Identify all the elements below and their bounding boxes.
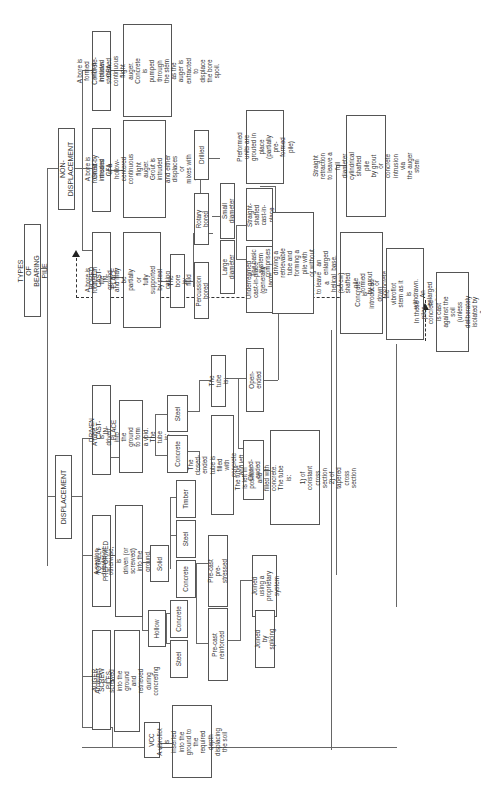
closed-tube-desc: The closed-ended tube is filled with con… (211, 415, 234, 515)
bored-cast-desc: A bore is formed in the ground and may b… (123, 232, 161, 328)
connector (155, 414, 167, 415)
root-node: TYPES OF BEARING PILE (24, 224, 41, 317)
driven-steel-node: Steel (167, 395, 188, 432)
closed-ended-desc: The tube is left in position and filled … (270, 430, 320, 525)
connector (212, 216, 220, 217)
connector (82, 250, 92, 251)
connector (228, 640, 241, 641)
solid-concrete-node: Concrete (176, 560, 196, 598)
connector (196, 563, 197, 643)
joined-proprietary-node: Joined using a proprietary system (252, 555, 277, 617)
connector (236, 225, 237, 259)
concrete-cfa-desc: A bore is formed with a hollow-stemmed c… (123, 24, 172, 117)
hollow-steel-node: Steel (170, 640, 188, 678)
connector (170, 497, 171, 569)
connector (396, 344, 397, 607)
precast-reinforced-node: Pre-cast reinforced (208, 608, 228, 681)
connector (196, 643, 208, 644)
connector (47, 496, 55, 497)
joined-splicing-node: Joined by splicing (255, 610, 275, 668)
arrow-up-icon (72, 250, 80, 257)
connector (199, 380, 200, 411)
bore-is-node: The bore is: (170, 254, 185, 308)
driven-cast-desc: A tube is driven into the ground to form… (119, 400, 143, 473)
connector (82, 555, 92, 556)
open-ended-desc: The basic system comprises driving a ret… (272, 212, 314, 314)
connector (82, 438, 83, 728)
connector (166, 613, 167, 643)
drilled-node: Drilled (194, 130, 209, 180)
hollow-concrete-node: Concrete (170, 600, 188, 638)
connector (260, 186, 276, 187)
connector (240, 580, 241, 640)
vcc-desc: A vibroflot is inserted into the ground … (172, 705, 212, 778)
connector (188, 411, 200, 412)
connector (82, 747, 397, 748)
connector (112, 727, 113, 747)
connector (278, 312, 279, 380)
connector (47, 168, 48, 566)
auger-screw-desc: An auger is screwed into the ground and … (114, 630, 140, 732)
rotary-bored-node: Rotary bored (194, 193, 209, 245)
precast-prestressed-node: Pre-cast pre-stressed (208, 535, 228, 607)
connector (264, 380, 278, 381)
note-box: In these piles, concrete is cast against… (436, 272, 469, 352)
straight-retraction-desc: Straight retraction to leave a full diam… (346, 115, 386, 217)
small-diameter-node: Small diameter (220, 183, 235, 239)
connector (238, 378, 239, 448)
solid-steel-node: Steel (176, 520, 196, 558)
dashed-arrow (76, 258, 77, 298)
grout-cfa-desc: A bore is formed by means of a hollow-ce… (123, 120, 166, 218)
connector (336, 165, 337, 575)
percussion-bored-node: Percussion bored (194, 262, 209, 319)
solid-node: Solid (150, 545, 169, 582)
connector (331, 330, 332, 750)
preformed-grouted-node: Preformed units are grouted in place (pa… (246, 110, 284, 184)
straight-shafted-node: Straight-shafted cast-in-place (246, 188, 273, 241)
hollow-node: Hollow (148, 610, 166, 647)
large-diameter-node: Large diameter (220, 240, 235, 294)
non-displacement-node: NON-DISPLACEMENT (58, 128, 75, 210)
solid-timber-node: Timber (176, 480, 196, 518)
connector (111, 457, 119, 458)
driven-concrete-node: Concrete (167, 435, 188, 473)
open-ended-node: Open-ended (246, 348, 264, 412)
connector (155, 455, 167, 456)
tube-is-node: The tube is: (211, 355, 226, 407)
displacement-node: DISPLACEMENT (55, 455, 72, 539)
totally-preformed-desc: A section, tubular or otherwise, is driv… (115, 505, 143, 617)
